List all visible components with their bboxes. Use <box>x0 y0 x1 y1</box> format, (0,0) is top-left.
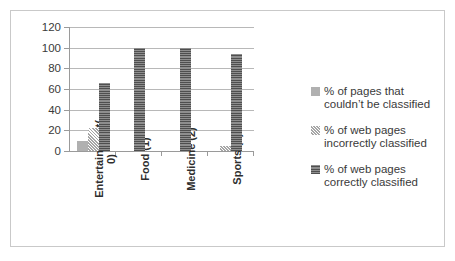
x-axis-labels: Entertainment(0)Food (1)Medicine (2)Spor… <box>70 159 254 244</box>
legend-swatch-icon <box>311 87 320 96</box>
bar <box>134 48 145 151</box>
legend-label-line: % of pages that <box>324 85 430 98</box>
y-tick-40 <box>64 110 69 111</box>
y-tick-80 <box>64 68 69 69</box>
legend-label: % of pages thatcouldn’t be classified <box>324 85 430 111</box>
y-tick-100 <box>64 48 69 49</box>
bar <box>220 146 231 151</box>
x-label-cell: Food (1) <box>116 159 162 244</box>
x-label-cell: Sports (3) <box>208 159 254 244</box>
chart-figure: 020406080100120 Entertainment(0)Food (1)… <box>10 10 445 247</box>
plot-area: 020406080100120 <box>69 27 254 151</box>
legend-item[interactable]: % of web pagesincorrectly classified <box>311 124 439 150</box>
y-tick-120 <box>64 27 69 28</box>
bar-group <box>116 27 162 151</box>
y-tick-60 <box>64 89 69 90</box>
y-tick-label-100: 100 <box>31 42 61 54</box>
legend-label-line: couldn’t be classified <box>324 98 430 111</box>
y-tick-label-0: 0 <box>31 145 61 157</box>
legend-label: % of web pagesincorrectly classified <box>324 124 427 150</box>
bar-groups <box>70 27 254 151</box>
y-tick-label-60: 60 <box>31 83 61 95</box>
bar-group <box>162 27 208 151</box>
bar <box>231 54 242 151</box>
y-tick-label-40: 40 <box>31 104 61 116</box>
bar <box>180 48 191 151</box>
y-tick-label-120: 120 <box>31 21 61 33</box>
legend-label-line: % of web pages <box>324 124 427 137</box>
legend-item[interactable]: % of web pagescorrectly classified <box>311 163 439 189</box>
legend-swatch-icon <box>311 126 320 135</box>
x-label-cell: Medicine (2) <box>162 159 208 244</box>
bar-group <box>208 27 254 151</box>
bar <box>88 128 99 151</box>
legend-label-line: % of web pages <box>324 163 418 176</box>
chart-legend: % of pages thatcouldn’t be classified% o… <box>311 85 439 202</box>
y-tick-20 <box>64 130 69 131</box>
bar <box>99 83 110 151</box>
y-tick-label-80: 80 <box>31 62 61 74</box>
bar <box>77 141 88 151</box>
legend-swatch-icon <box>311 165 320 174</box>
y-tick-label-20: 20 <box>31 124 61 136</box>
bar-group <box>70 27 116 151</box>
legend-label-line: correctly classified <box>324 176 418 189</box>
legend-label: % of web pagescorrectly classified <box>324 163 418 189</box>
x-label-cell: Entertainment(0) <box>70 159 116 244</box>
legend-label-line: incorrectly classified <box>324 137 427 150</box>
legend-item[interactable]: % of pages thatcouldn’t be classified <box>311 85 439 111</box>
